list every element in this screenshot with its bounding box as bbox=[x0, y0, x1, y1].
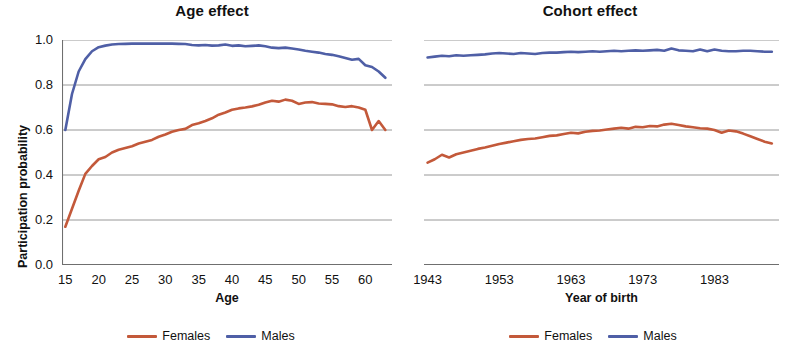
x-axis-label-age: Age bbox=[62, 291, 392, 305]
y-tick-label: 0.4 bbox=[0, 168, 53, 181]
y-axis-label: Participation probability bbox=[16, 125, 30, 268]
legend-label-males: Males bbox=[261, 329, 294, 343]
plot-area-age bbox=[62, 40, 392, 265]
plot-area-cohort bbox=[424, 40, 779, 265]
series-line-males bbox=[65, 44, 385, 130]
panel-cohort-effect: Cohort effect 19431953196319731983 Year … bbox=[400, 0, 786, 320]
x-tick-label: 1963 bbox=[541, 273, 601, 286]
legend-swatch-females bbox=[127, 335, 157, 338]
x-tick-label: 1953 bbox=[469, 273, 529, 286]
legend-entry-males: Males bbox=[608, 329, 676, 343]
x-tick-label: 60 bbox=[335, 273, 395, 286]
legend-label-males: Males bbox=[643, 329, 676, 343]
series-line-males bbox=[428, 49, 772, 58]
x-tick-label: 1983 bbox=[684, 273, 744, 286]
y-tick-label: 0.0 bbox=[0, 258, 53, 271]
legend-swatch-males bbox=[226, 335, 256, 338]
panel-age-title: Age effect bbox=[0, 2, 400, 19]
legend-swatch-females bbox=[509, 335, 539, 338]
legend-swatch-males bbox=[608, 335, 638, 338]
y-tick-label: 0.2 bbox=[0, 213, 53, 226]
series-line-females bbox=[65, 100, 385, 227]
legend-entry-males: Males bbox=[226, 329, 294, 343]
y-tick-label: 0.8 bbox=[0, 78, 53, 91]
cohort-effect-svg bbox=[424, 40, 779, 265]
x-axis-label-cohort: Year of birth bbox=[424, 291, 779, 305]
y-tick-label: 0.6 bbox=[0, 123, 53, 136]
legend-label-females: Females bbox=[162, 329, 210, 343]
legend-entry-females: Females bbox=[127, 329, 210, 343]
legend-cohort-panel: Females Males bbox=[400, 323, 786, 349]
x-tick-label: 1973 bbox=[613, 273, 673, 286]
age-effect-svg bbox=[62, 40, 392, 265]
legend-label-females: Females bbox=[544, 329, 592, 343]
panel-age-effect: Age effect Participation probability 0.0… bbox=[0, 0, 400, 320]
panel-cohort-title: Cohort effect bbox=[400, 2, 786, 19]
legend-age-panel: Females Males bbox=[0, 323, 400, 349]
y-tick-label: 1.0 bbox=[0, 33, 53, 46]
figure-two-panel-line-charts: Age effect Participation probability 0.0… bbox=[0, 0, 786, 357]
x-tick-label: 1943 bbox=[398, 273, 458, 286]
series-line-females bbox=[428, 124, 772, 163]
legend-entry-females: Females bbox=[509, 329, 592, 343]
